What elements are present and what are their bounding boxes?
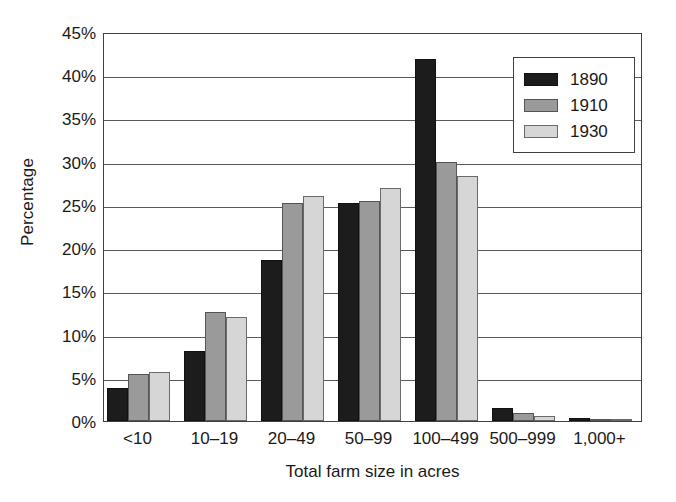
y-tick-label: 35% <box>36 111 96 128</box>
x-tick-label: 1,000+ <box>573 430 625 447</box>
legend-item-1890: 1890 <box>524 66 625 92</box>
bar-1910-10–19 <box>205 312 226 421</box>
y-tick-label: 30% <box>36 154 96 171</box>
legend-swatch-icon <box>524 125 558 138</box>
bar-1890-100–499 <box>415 59 436 421</box>
bar-1930-<10 <box>149 372 170 421</box>
legend-swatch-icon <box>524 73 558 86</box>
legend-label: 1930 <box>570 123 608 140</box>
bar-chart: Percentage 0%5%10%15%20%25%30%35%40%45% … <box>0 0 676 502</box>
bar-group <box>338 34 401 421</box>
legend-item-1910: 1910 <box>524 92 625 118</box>
x-tick-label: 50–99 <box>345 430 392 447</box>
bar-1890-500–999 <box>492 408 513 421</box>
bar-group <box>184 34 247 421</box>
bar-group <box>107 34 170 421</box>
y-tick-label: 25% <box>36 197 96 214</box>
legend-label: 1890 <box>570 71 608 88</box>
legend-item-1930: 1930 <box>524 118 625 144</box>
bar-1930-10–19 <box>226 317 247 421</box>
y-axis-title: Percentage <box>18 112 38 292</box>
y-tick-label: 45% <box>36 25 96 42</box>
bar-group <box>261 34 324 421</box>
x-tick-label: 20–49 <box>268 430 315 447</box>
y-axis-tick-labels: 0%5%10%15%20%25%30%35%40%45% <box>36 33 96 422</box>
y-tick-label: 5% <box>36 370 96 387</box>
legend: 189019101930 <box>513 57 635 153</box>
x-tick-label: 100–499 <box>412 430 478 447</box>
bar-1930-100–499 <box>457 176 478 421</box>
bar-1890-50–99 <box>338 203 359 421</box>
bar-1930-20–49 <box>303 196 324 421</box>
bar-1930-1,000+ <box>611 419 632 421</box>
x-tick-label: 10–19 <box>191 430 238 447</box>
bar-1890-10–19 <box>184 351 205 421</box>
legend-swatch-icon <box>524 99 558 112</box>
bar-1890-<10 <box>107 388 128 421</box>
bar-group <box>415 34 478 421</box>
bar-1910-50–99 <box>359 201 380 421</box>
bar-1910-500–999 <box>513 413 534 421</box>
y-tick-label: 40% <box>36 68 96 85</box>
bar-1890-20–49 <box>261 260 282 421</box>
x-tick-label: <10 <box>123 430 152 447</box>
bar-1910-<10 <box>128 374 149 421</box>
bar-1910-20–49 <box>282 203 303 421</box>
bar-1890-1,000+ <box>569 418 590 421</box>
y-tick-label: 10% <box>36 327 96 344</box>
bar-1910-1,000+ <box>590 419 611 421</box>
bar-1930-50–99 <box>380 188 401 421</box>
x-axis-tick-labels: <1010–1920–4950–99100–499500–9991,000+ <box>103 430 642 454</box>
y-tick-label: 15% <box>36 284 96 301</box>
x-axis-title: Total farm size in acres <box>103 462 642 482</box>
legend-label: 1910 <box>570 97 608 114</box>
y-tick-label: 20% <box>36 241 96 258</box>
bar-1910-100–499 <box>436 162 457 421</box>
x-tick-label: 500–999 <box>489 430 555 447</box>
bar-1930-500–999 <box>534 416 555 421</box>
y-tick-label: 0% <box>36 414 96 431</box>
